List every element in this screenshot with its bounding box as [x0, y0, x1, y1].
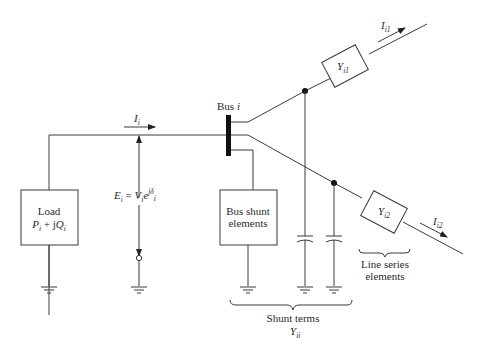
voltage-label: Ei = Viejδi — [113, 187, 156, 204]
load-title: Load — [38, 205, 61, 217]
voltage-reference — [136, 136, 141, 286]
current-out2-label: Ii2 — [432, 215, 443, 230]
shunt-terms-line1: Shunt terms — [267, 312, 320, 324]
bus-network-diagram: Bus i Ii Ii1 Ii2 Yi1 Yi2 Load Pi + jQi E… — [0, 0, 481, 353]
ground-icons — [41, 287, 342, 293]
line-series-line1: Line series — [361, 258, 409, 270]
bus-bar — [226, 115, 231, 156]
bus-label: Bus i — [217, 100, 240, 112]
ground-icon — [240, 287, 256, 293]
ground-icon — [297, 287, 313, 293]
shunt-terms-brace — [230, 300, 352, 310]
shunt-terms-symbol: Yii — [290, 325, 300, 340]
bus-shunt-line1: Bus shunt — [226, 205, 270, 217]
bus-shunt-line2: elements — [228, 217, 267, 229]
ground-icon — [131, 287, 147, 293]
line-series-line2: elements — [365, 270, 404, 282]
current-in-label: Ii — [133, 112, 140, 127]
line-series-brace — [359, 249, 410, 257]
ground-icon — [326, 287, 342, 293]
line-branch-1 — [231, 24, 427, 286]
current-out1-label: Ii1 — [380, 19, 391, 34]
